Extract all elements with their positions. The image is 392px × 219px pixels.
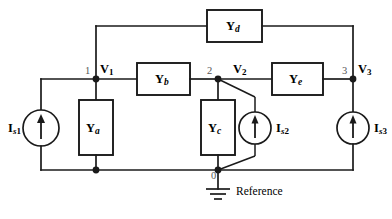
label-admittance-ya: Ya (86, 122, 100, 137)
junction-dot-node3 (350, 76, 357, 83)
label-node-number-1: 1 (85, 66, 90, 77)
junction-dot-node1 (93, 76, 100, 83)
label-current-source-is1: Is1 (8, 122, 21, 136)
label-node-voltage-v2: V2 (233, 63, 247, 77)
label-node-voltage-v3: V3 (358, 63, 372, 77)
wire-is2-to-ground-diagonal (218, 156, 255, 170)
label-node-voltage-v1: V1 (100, 63, 114, 77)
label-admittance-yd: Yd (226, 20, 240, 35)
wire-node2-to-is2-diagonal (218, 79, 255, 97)
label-admittance-yc: Yc (208, 122, 221, 137)
label-reference: Reference (236, 186, 283, 198)
label-current-source-is3: Is3 (374, 122, 387, 136)
label-node-number-2: 2 (207, 66, 212, 77)
label-current-source-is2: Is2 (276, 122, 289, 136)
circuit-diagram-figure: Yd Yb Ye Ya Yc Is1 Is2 Is3 1 2 3 0 V1 V2… (0, 0, 392, 219)
label-node-number-0: 0 (211, 171, 216, 182)
label-node-number-3: 3 (342, 66, 347, 77)
junction-dot-node2 (215, 76, 222, 83)
junction-dot-ya-bottom (93, 167, 100, 174)
label-admittance-ye: Ye (289, 73, 302, 88)
label-admittance-yb: Yb (155, 73, 169, 88)
circuit-schematic-canvas (0, 0, 392, 219)
